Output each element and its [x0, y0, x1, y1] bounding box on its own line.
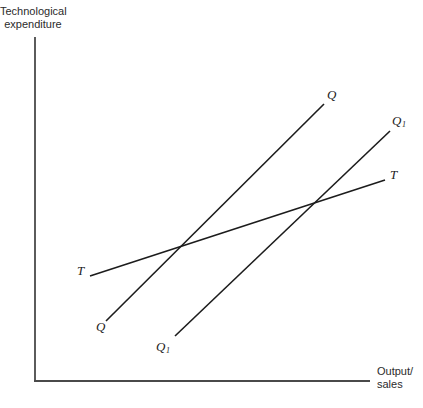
x-axis-label-line1: Output/ [377, 365, 413, 378]
y-axis-label-line1: Technological [0, 5, 66, 18]
curve-t [90, 180, 385, 276]
y-axis-label: Technological expenditure [0, 5, 66, 30]
line-label-q1-top: Q1 [392, 114, 405, 129]
line-label-q1-top-main: Q [392, 113, 401, 128]
x-axis-label: Output/ sales [377, 365, 413, 390]
x-axis-label-line2: sales [377, 378, 413, 391]
line-label-q1-bottom-main: Q [156, 339, 165, 354]
diagram-lines [0, 0, 423, 408]
line-label-q-bottom: Q [96, 320, 105, 333]
diagram-canvas: Technological expenditure Output/ sales … [0, 0, 423, 408]
line-label-q1-bottom: Q1 [156, 340, 169, 355]
curve-q [106, 104, 324, 321]
line-label-q1-top-sub: 1 [402, 120, 406, 129]
y-axis-label-line2: expenditure [0, 18, 66, 31]
line-label-t-left: T [77, 264, 84, 277]
curve-q1 [175, 131, 390, 336]
line-label-q-top: Q [327, 88, 336, 101]
line-label-q1-bottom-sub: 1 [166, 346, 170, 355]
line-label-t-right: T [390, 168, 397, 181]
